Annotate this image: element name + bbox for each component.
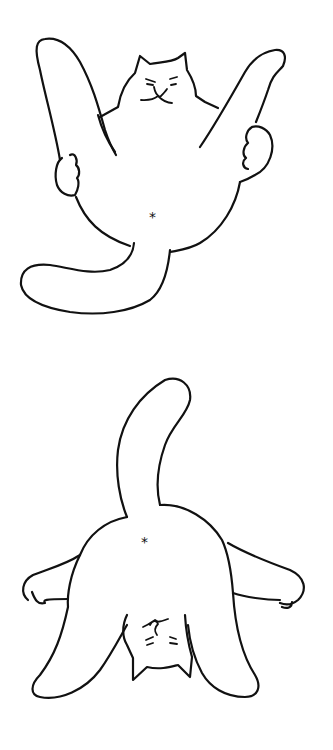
right-hind-leg (188, 593, 258, 697)
right-eye (170, 77, 177, 85)
body-right (170, 182, 240, 252)
body-left (76, 197, 130, 246)
navel-asterisk: * (141, 534, 148, 550)
navel-asterisk: * (149, 209, 156, 225)
left-hind-leg (37, 39, 116, 160)
right-front-leg (228, 543, 304, 608)
left-eye (146, 637, 153, 645)
body-left (68, 517, 127, 607)
cat-upside-down-illustration: * (0, 375, 333, 750)
mouth (141, 87, 172, 103)
tail (117, 379, 190, 517)
right-eye (170, 637, 177, 644)
left-front-paw (56, 154, 80, 195)
left-hind-leg (33, 607, 128, 698)
cat-on-back-illustration: * (0, 0, 333, 375)
mouth (143, 619, 168, 635)
right-hind-leg (200, 50, 285, 147)
tail (21, 243, 170, 314)
head-outline (100, 53, 218, 117)
body-right (160, 505, 233, 593)
right-front-paw (240, 126, 272, 182)
left-eye (146, 79, 155, 85)
